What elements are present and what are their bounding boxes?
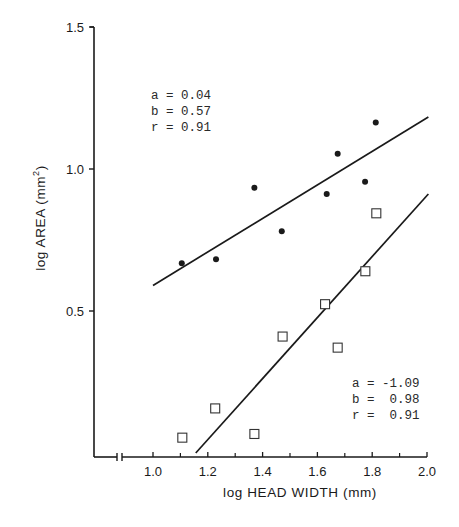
y-tick-label: 0.5 — [66, 304, 84, 319]
open-square-point — [361, 267, 370, 276]
y-axis-label: log AREA (mm2) — [31, 165, 48, 271]
filled-circle-point — [179, 260, 185, 266]
x-tick-label: 1.0 — [144, 464, 162, 479]
filled-circle-point — [279, 228, 285, 234]
y-tick-label: 1.0 — [66, 162, 84, 177]
open-square-point — [178, 433, 187, 442]
open-square-point — [211, 404, 220, 413]
x-tick-label: 1.6 — [308, 464, 326, 479]
open-square-point — [278, 332, 287, 341]
regression-stat-1: b = 0.57 — [151, 105, 211, 119]
open-square-point — [372, 209, 381, 218]
filled-circle-point — [213, 256, 219, 262]
open-square-point — [333, 343, 342, 352]
x-tick-label: 2.0 — [418, 464, 436, 479]
regression-stat-1: r = 0.91 — [151, 121, 211, 135]
regression-annotations: a = 0.04b = 0.57r = 0.91a = -1.09b = 0.9… — [151, 89, 420, 423]
x-axis-label: log HEAD WIDTH (mm) — [223, 485, 377, 500]
x-tick-label: 1.4 — [254, 464, 272, 479]
regression-stat-2: b = 0.98 — [352, 393, 420, 407]
regression-line-1 — [153, 117, 428, 285]
regression-stat-2: r = 0.91 — [352, 409, 420, 423]
y-tick-label: 1.5 — [66, 20, 84, 35]
filled-circle-point — [335, 151, 341, 157]
filled-circle-point — [373, 119, 379, 125]
filled-circle-point — [324, 191, 330, 197]
filled-circle-point — [362, 179, 368, 185]
open-square-point — [250, 429, 259, 438]
open-square-point — [321, 300, 330, 309]
filled-circle-point — [251, 185, 257, 191]
regression-stat-2: a = -1.09 — [352, 377, 420, 391]
regression-stat-1: a = 0.04 — [151, 89, 211, 103]
x-tick-label: 1.2 — [199, 464, 217, 479]
scatter-chart: 0.51.01.51.01.21.41.61.82.0 a = 0.04b = … — [0, 0, 459, 527]
x-tick-label: 1.8 — [363, 464, 381, 479]
